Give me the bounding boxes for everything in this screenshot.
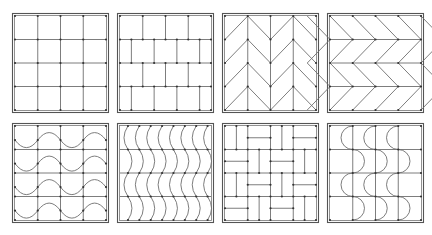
tile-square-grid: Square grid xyxy=(12,13,109,113)
tile-vertical-herringbone: Vertical herringbone/chevron xyxy=(222,13,319,113)
figure-title: Tile pattern layouts xyxy=(0,0,1,1)
tile-horizontal-herringbone: Horizontal herringbone/chevron xyxy=(327,13,424,113)
tile-semicircle-wave: Semicircle (fish-scale) wave xyxy=(327,123,424,223)
tile-running-bond: Running bond (brick) xyxy=(117,13,214,113)
semicircle-wave-drawing xyxy=(327,123,424,223)
horizontal-wave-drawing xyxy=(12,123,109,223)
vertical-herringbone-drawing xyxy=(222,13,319,113)
tile-pattern-figure: Tile pattern layouts Square grid Running… xyxy=(0,0,432,235)
square-grid-drawing xyxy=(12,13,109,113)
running-bond-drawing xyxy=(117,13,214,113)
horizontal-herringbone-drawing xyxy=(327,13,424,113)
tile-horizontal-wave: Horizontal wave xyxy=(12,123,109,223)
tile-vertical-wave: Vertical wave xyxy=(117,123,214,223)
basketweave-drawing xyxy=(222,123,319,223)
tile-basketweave: Basketweave xyxy=(222,123,319,223)
vertical-wave-drawing xyxy=(117,123,214,223)
